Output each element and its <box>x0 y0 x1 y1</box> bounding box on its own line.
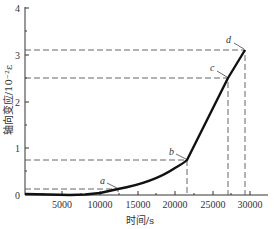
x-axis-title: 时间/s <box>126 214 155 226</box>
point-label-a: a <box>100 175 105 186</box>
y-tick-label: 2 <box>15 97 20 108</box>
y-tick-label: 1 <box>15 143 20 154</box>
point-label-b: b <box>169 146 174 157</box>
y-tick-label: 3 <box>15 50 20 61</box>
x-tick-label: 15000 <box>126 199 151 210</box>
x-tick-label: 10000 <box>88 199 113 210</box>
point-label-c: c <box>210 62 215 73</box>
x-tick-label: 5000 <box>52 199 72 210</box>
y-axis-title: 轴向变应/10⁻²ε <box>2 65 14 136</box>
point-leaders <box>107 43 244 188</box>
y-tick-label: 0 <box>15 190 20 201</box>
y-ticks <box>25 8 29 171</box>
chart: 4 3 2 1 0 5000 10000 15000 20000 25000 3… <box>0 0 275 229</box>
x-tick-label: 25000 <box>201 199 226 210</box>
x-tick-label: 20000 <box>163 199 188 210</box>
point-label-d: d <box>226 34 232 45</box>
x-tick-label: 30000 <box>238 199 263 210</box>
y-tick-label: 4 <box>15 3 20 14</box>
